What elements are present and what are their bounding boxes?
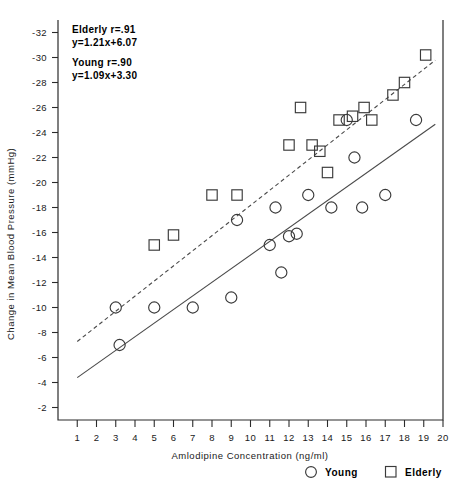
x-tick-label: 9 xyxy=(228,432,234,443)
data-point-elderly xyxy=(207,190,217,200)
x-tick-label: 14 xyxy=(322,432,333,443)
x-tick-label: 18 xyxy=(399,432,410,443)
chart-legend: Young Elderly xyxy=(306,467,442,479)
y-tick-label: -14 xyxy=(32,252,47,263)
y-tick-label: -28 xyxy=(32,77,47,88)
legend-young-label: Young xyxy=(325,467,358,478)
x-tick-label: 2 xyxy=(94,432,100,443)
data-point-young xyxy=(291,228,302,239)
series-elderly-markers xyxy=(149,50,431,250)
data-point-young xyxy=(283,231,294,242)
data-point-young xyxy=(149,302,160,313)
data-point-young xyxy=(326,202,337,213)
x-tick-label: 12 xyxy=(283,432,294,443)
chart-canvas: -2-4-6-8-10-12-14-16-18-20-22-24-26-28-3… xyxy=(0,0,465,485)
legend-young-circle-icon xyxy=(306,467,317,478)
x-tick-label: 20 xyxy=(437,432,448,443)
data-point-young xyxy=(410,114,421,125)
data-point-elderly xyxy=(388,90,398,100)
x-axis-tick-labels: 1234567891011121314151617181920 xyxy=(74,432,448,443)
data-point-elderly xyxy=(367,115,377,125)
annotation-young-r: Young r=.90 xyxy=(72,57,132,68)
annotation-young-equation: y=1.09x+3.30 xyxy=(72,70,137,81)
x-tick-label: 7 xyxy=(190,432,196,443)
regression-line-young xyxy=(77,124,435,377)
y-tick-label: -16 xyxy=(32,227,47,238)
x-tick-label: 15 xyxy=(341,432,352,443)
x-tick-label: 10 xyxy=(245,432,256,443)
y-tick-label: -4 xyxy=(38,377,47,388)
x-axis-ticks xyxy=(77,420,443,427)
y-tick-label: -32 xyxy=(32,27,47,38)
x-tick-label: 13 xyxy=(303,432,314,443)
x-tick-label: 11 xyxy=(264,432,275,443)
y-tick-label: -10 xyxy=(32,302,47,313)
x-tick-label: 5 xyxy=(151,432,157,443)
data-point-elderly xyxy=(420,50,430,60)
data-point-young xyxy=(349,152,360,163)
legend-elderly-label: Elderly xyxy=(405,467,442,478)
x-tick-label: 8 xyxy=(209,432,215,443)
series-young-markers xyxy=(110,114,422,350)
scatter-chart-figure: -2-4-6-8-10-12-14-16-18-20-22-24-26-28-3… xyxy=(0,0,465,485)
x-axis-title: Amlodipine Concentration (ng/ml) xyxy=(172,450,329,461)
data-point-elderly xyxy=(232,190,242,200)
y-tick-label: -18 xyxy=(32,202,47,213)
data-point-young xyxy=(187,302,198,313)
y-axis-title: Change in Mean Blood Pressure (mmHg) xyxy=(5,148,16,340)
regression-lines xyxy=(77,60,435,377)
y-tick-label: -20 xyxy=(32,177,47,188)
data-point-elderly xyxy=(149,240,159,250)
data-point-young xyxy=(226,292,237,303)
annotation-elderly-r: Elderly r=.91 xyxy=(72,24,136,35)
data-point-young xyxy=(270,202,281,213)
y-tick-label: -2 xyxy=(38,402,47,413)
annotation-elderly-equation: y=1.21x+6.07 xyxy=(72,37,137,48)
statistics-annotation: Elderly r=.91 y=1.21x+6.07 Young r=.90 y… xyxy=(72,24,137,81)
data-point-young xyxy=(341,114,352,125)
data-point-elderly xyxy=(359,102,369,112)
data-point-elderly xyxy=(284,140,294,150)
y-tick-label: -22 xyxy=(32,152,47,163)
y-tick-label: -30 xyxy=(32,52,47,63)
data-point-young xyxy=(110,302,121,313)
data-point-elderly xyxy=(307,140,317,150)
y-axis-ticks xyxy=(52,33,58,408)
y-tick-label: -26 xyxy=(32,102,47,113)
legend-elderly-square-icon xyxy=(386,467,397,478)
data-point-young xyxy=(380,189,391,200)
data-point-elderly xyxy=(322,167,332,177)
y-tick-label: -12 xyxy=(32,277,47,288)
y-tick-label: -6 xyxy=(38,352,47,363)
data-point-elderly xyxy=(168,230,178,240)
x-tick-label: 4 xyxy=(132,432,138,443)
x-tick-label: 16 xyxy=(360,432,371,443)
y-tick-label: -24 xyxy=(32,127,47,138)
y-axis-tick-labels: -2-4-6-8-10-12-14-16-18-20-22-24-26-28-3… xyxy=(32,27,47,413)
x-tick-label: 19 xyxy=(418,432,429,443)
data-point-young xyxy=(357,202,368,213)
x-tick-label: 1 xyxy=(74,432,80,443)
x-tick-label: 6 xyxy=(171,432,177,443)
x-tick-label: 17 xyxy=(380,432,391,443)
regression-line-elderly xyxy=(77,60,435,341)
y-tick-label: -8 xyxy=(38,327,47,338)
data-point-elderly xyxy=(295,102,305,112)
data-point-young xyxy=(276,267,287,278)
x-tick-label: 3 xyxy=(113,432,119,443)
data-point-young xyxy=(303,189,314,200)
data-point-elderly xyxy=(399,77,409,87)
